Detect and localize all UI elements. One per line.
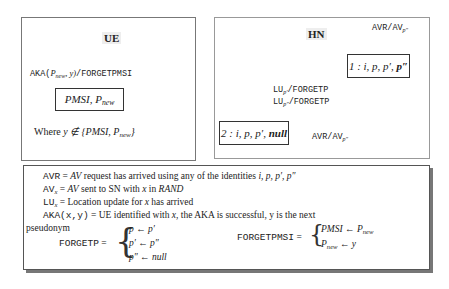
legend-line-aka: AKA(x,y) = UE identified with x, the AKA… bbox=[43, 210, 315, 221]
hn-forget-label-2: LUp″/FORGETP bbox=[273, 96, 329, 107]
forgetpmsi-def: FORGETPMSI = bbox=[237, 232, 302, 243]
forgetpmsi-case-1: PMSI ← Pnew bbox=[321, 224, 373, 235]
legend-line-av: AVx = AV sent to SN with x in RAND bbox=[43, 184, 183, 195]
ue-transition-label: AKA(Pnew, y)/FORGETPMSI bbox=[30, 68, 132, 79]
hn-self-loop-label: AVR/AVp″ bbox=[372, 22, 408, 33]
legend-line-avr: AVR = AV request has arrived using any o… bbox=[43, 171, 296, 182]
hn-back-label: AVR/AVp″ bbox=[312, 131, 348, 142]
forgetp-case-1: p ← p′ bbox=[129, 224, 155, 234]
hn-forget-label-1: LUp′/FORGETP bbox=[273, 84, 328, 95]
hn-state-1: 1 : i, p, p′, p″ bbox=[347, 54, 410, 78]
forgetp-case-3: p″ ← null bbox=[129, 252, 167, 262]
legend-wrap-word: pseudonym bbox=[26, 223, 70, 233]
ue-state-pmsi: PMSI, Pnew bbox=[55, 88, 124, 111]
hn-state-2: 2 : i, p, p′, null bbox=[219, 121, 289, 145]
forgetp-case-2: p′ ← p″ bbox=[129, 238, 159, 248]
ue-where-note: Where y ∉ {PMSI, Pnew} bbox=[34, 126, 135, 139]
ue-panel: UE AKA(Pnew, y)/FORGETPMSI PMSI, Pnew Wh… bbox=[21, 17, 196, 161]
hn-title: HN bbox=[306, 28, 327, 40]
legend-panel: AVR = AV request has arrived using any o… bbox=[23, 165, 430, 270]
forgetpmsi-case-2: Pnew ← y bbox=[321, 239, 356, 250]
forgetp-def: FORGETP = bbox=[59, 238, 107, 249]
legend-line-lu: LUx = Location update for x has arrived bbox=[43, 197, 193, 208]
ue-title: UE bbox=[102, 32, 121, 44]
